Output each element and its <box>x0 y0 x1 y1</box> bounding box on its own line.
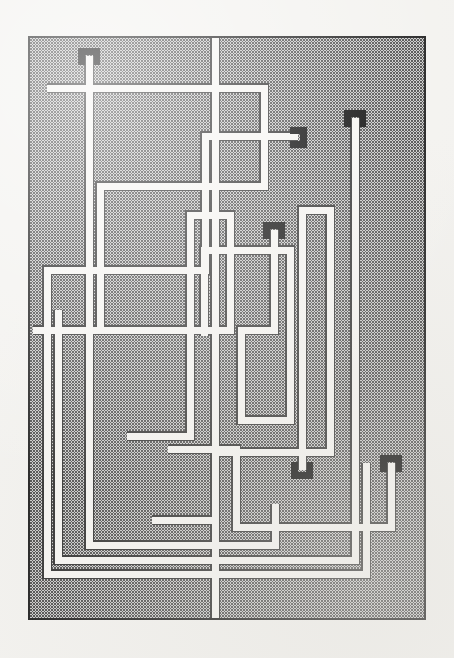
artwork-page <box>0 0 454 658</box>
maze-artwork-canvas <box>0 0 454 658</box>
